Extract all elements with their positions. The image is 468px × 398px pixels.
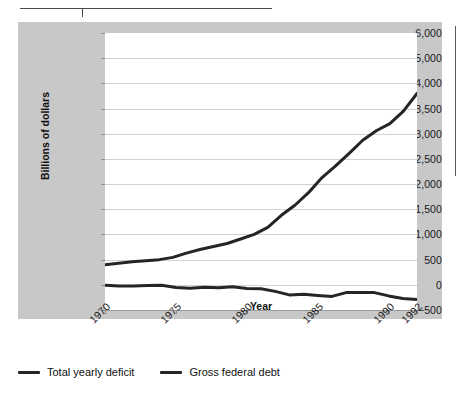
right-margin-rule [455,26,456,176]
header-rule [20,8,272,9]
line-total-yearly-deficit [105,285,417,299]
series-lines [105,33,417,310]
y-axis-title: Billions of dollars [39,73,51,199]
plot-area [105,33,417,310]
legend-label: Gross federal debt [189,366,280,378]
legend-label: Total yearly deficit [47,366,134,378]
chart-legend: Total yearly deficitGross federal debt [18,364,348,380]
header-rule-tick [82,8,83,17]
line-gross-federal-debt [105,93,417,264]
x-axis-title: Year [105,300,417,312]
legend-item: Gross federal debt [160,366,280,378]
legend-line-icon [18,371,40,374]
legend-item: Total yearly deficit [18,366,134,378]
legend-line-icon [160,371,182,374]
chart-figure: Billions of dollars 6,0005,0004,0003,500… [18,22,442,319]
